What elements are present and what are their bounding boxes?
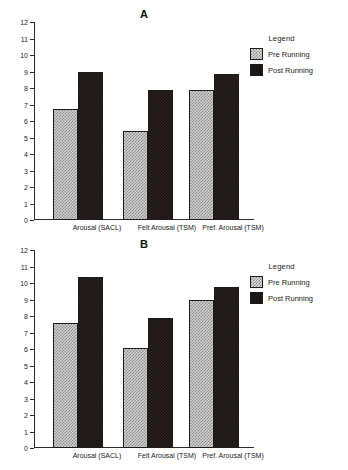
bar-group bbox=[123, 22, 173, 220]
x-category-label: Pref. Arousal (TSM) bbox=[173, 452, 293, 460]
bar-post-running bbox=[148, 90, 173, 220]
y-tick-label: 9 bbox=[24, 296, 28, 303]
y-tick-label: 7 bbox=[24, 329, 28, 336]
legend-label-pre-running: Pre Running bbox=[268, 50, 310, 59]
y-tick-mark bbox=[30, 283, 34, 284]
panel-a: A 0123456789101112 Arousal (SACL)Felt Ar… bbox=[0, 8, 348, 236]
bar-series-a bbox=[35, 22, 248, 220]
y-tick-label: 1 bbox=[24, 428, 28, 435]
legend-title-b: Legend bbox=[250, 262, 313, 271]
bar-pre-running bbox=[53, 109, 78, 220]
y-tick-label: 2 bbox=[24, 412, 28, 419]
y-tick-label: 0 bbox=[24, 217, 28, 224]
panel-a-label: A bbox=[124, 8, 164, 20]
legend-label-post-running: Post Running bbox=[268, 294, 313, 303]
cut-off-header-text bbox=[4, 0, 184, 8]
panel-b: B 0123456789101112 Arousal (SACL)Felt Ar… bbox=[0, 238, 348, 470]
bar-pre-running bbox=[123, 348, 148, 448]
x-category-label: Pref. Arousal (TSM) bbox=[173, 224, 293, 232]
legend-a: Legend Pre Running Post Running bbox=[250, 34, 313, 80]
legend-item-pre-running-b: Pre Running bbox=[250, 276, 313, 288]
y-tick-mark bbox=[30, 267, 34, 268]
y-tick-label: 4 bbox=[24, 379, 28, 386]
legend-label-post-running: Post Running bbox=[268, 66, 313, 75]
bar-group bbox=[123, 250, 173, 448]
y-tick-label: 3 bbox=[24, 167, 28, 174]
y-tick-label: 5 bbox=[24, 134, 28, 141]
legend-swatch-pre-running-icon bbox=[250, 276, 263, 288]
y-tick-mark bbox=[30, 72, 34, 73]
bar-pre-running bbox=[123, 131, 148, 220]
bar-pre-running bbox=[189, 300, 214, 448]
y-tick-label: 11 bbox=[21, 35, 28, 42]
legend-item-post-running-a: Post Running bbox=[250, 64, 313, 76]
bar-series-b bbox=[35, 250, 248, 448]
bar-pre-running bbox=[189, 90, 214, 220]
bar-post-running bbox=[78, 277, 103, 448]
panel-b-label: B bbox=[124, 238, 164, 250]
y-tick-mark bbox=[30, 138, 34, 139]
y-tick-mark bbox=[30, 448, 34, 449]
bar-post-running bbox=[148, 318, 173, 448]
y-tick-mark bbox=[30, 432, 34, 433]
y-tick-label: 2 bbox=[24, 184, 28, 191]
legend-swatch-pre-running-icon bbox=[250, 48, 263, 60]
y-tick-label: 6 bbox=[24, 118, 28, 125]
y-tick-label: 1 bbox=[24, 200, 28, 207]
plot-area-a: 0123456789101112 bbox=[34, 22, 248, 220]
y-tick-mark bbox=[30, 39, 34, 40]
bar-group bbox=[189, 22, 239, 220]
y-tick-label: 8 bbox=[24, 313, 28, 320]
y-tick-mark bbox=[30, 316, 34, 317]
y-tick-mark bbox=[30, 349, 34, 350]
legend-item-pre-running-a: Pre Running bbox=[250, 48, 313, 60]
y-tick-mark bbox=[30, 415, 34, 416]
legend-item-post-running-b: Post Running bbox=[250, 292, 313, 304]
y-tick-mark bbox=[30, 250, 34, 251]
y-tick-mark bbox=[30, 300, 34, 301]
y-tick-mark bbox=[30, 333, 34, 334]
y-tick-label: 9 bbox=[24, 68, 28, 75]
y-tick-label: 0 bbox=[24, 445, 28, 452]
bar-post-running bbox=[214, 287, 239, 448]
y-tick-mark bbox=[30, 154, 34, 155]
y-tick-label: 6 bbox=[24, 346, 28, 353]
bar-group bbox=[189, 250, 239, 448]
bar-group bbox=[53, 250, 103, 448]
figure-canvas: A 0123456789101112 Arousal (SACL)Felt Ar… bbox=[0, 0, 348, 470]
y-tick-mark bbox=[30, 366, 34, 367]
bar-post-running bbox=[214, 74, 239, 220]
y-tick-label: 3 bbox=[24, 395, 28, 402]
bar-post-running bbox=[78, 72, 103, 221]
y-tick-label: 8 bbox=[24, 85, 28, 92]
y-tick-label: 10 bbox=[20, 280, 28, 287]
y-tick-label: 5 bbox=[24, 362, 28, 369]
bar-pre-running bbox=[53, 323, 78, 448]
y-tick-label: 4 bbox=[24, 151, 28, 158]
legend-label-pre-running: Pre Running bbox=[268, 278, 310, 287]
legend-b: Legend Pre Running Post Running bbox=[250, 262, 313, 308]
y-tick-mark bbox=[30, 399, 34, 400]
legend-swatch-post-running-icon bbox=[250, 292, 263, 304]
y-tick-mark bbox=[30, 55, 34, 56]
y-tick-label: 10 bbox=[20, 52, 28, 59]
plot-area-b: 0123456789101112 bbox=[34, 250, 248, 448]
y-tick-mark bbox=[30, 382, 34, 383]
y-tick-mark bbox=[30, 22, 34, 23]
y-tick-label: 12 bbox=[20, 19, 28, 26]
y-tick-label: 11 bbox=[21, 263, 28, 270]
y-tick-label: 7 bbox=[24, 101, 28, 108]
y-tick-mark bbox=[30, 220, 34, 221]
y-tick-mark bbox=[30, 171, 34, 172]
y-tick-mark bbox=[30, 88, 34, 89]
legend-title-a: Legend bbox=[250, 34, 313, 43]
legend-swatch-post-running-icon bbox=[250, 64, 263, 76]
y-tick-mark bbox=[30, 121, 34, 122]
y-tick-label: 12 bbox=[20, 247, 28, 254]
y-tick-mark bbox=[30, 204, 34, 205]
y-tick-mark bbox=[30, 187, 34, 188]
bar-group bbox=[53, 22, 103, 220]
y-tick-mark bbox=[30, 105, 34, 106]
